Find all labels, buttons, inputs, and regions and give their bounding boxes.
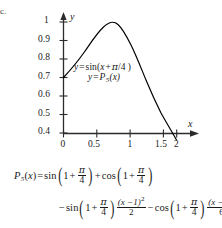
formula-pi-1: π (78, 165, 86, 175)
figure-root: c. (0, 0, 222, 228)
formula-fraction-quadratic: (x −1)22 (116, 196, 147, 218)
formula-exponent-2: 2 (141, 195, 145, 203)
formula-four-2: 4 (137, 175, 145, 186)
formula-one-1: 1 (63, 170, 68, 181)
y-tick-label-0.9: 0.9 (38, 34, 50, 44)
formula-plus-3: + (128, 170, 136, 181)
formula-x-minus-1-sq: (x −1) (118, 197, 141, 207)
formula-cos-1: cos (102, 170, 116, 181)
formula-block: P5(x)=sin(1+π4)+cos(1+π4) −sin(1+π4)(x −… (0, 158, 222, 228)
formula-line-2: −sin(1+π4)(x −1)22−cos(1+π4)(x −1)36 (58, 196, 222, 218)
formula-quad-num: (x −1)2 (117, 196, 146, 207)
x-axis-arrowhead (190, 130, 199, 137)
x-tick-label-2: 2 (174, 139, 179, 149)
formula-cubic-num: (x −1)3 (207, 196, 222, 207)
x-axis-label: x (188, 118, 192, 129)
annotation1-plus: + (104, 62, 111, 72)
formula-fraction-pi-over-4-1: π4 (77, 165, 88, 186)
y-tick-label-1: 1 (44, 15, 49, 25)
formula-plus-5: + (181, 202, 189, 213)
formula-bigparen-close-3: ) (110, 202, 114, 214)
formula-plus-4: + (90, 202, 98, 213)
x-tick-label-0.5: 0.5 (88, 139, 100, 149)
formula-bigparen-open-2: ( (117, 169, 121, 181)
formula-x-minus-1-cube: (x −1) (208, 197, 222, 207)
formula-pi-3: π (100, 197, 108, 207)
annotation2-equals: = (92, 72, 99, 82)
x-tick-label-0: 0 (61, 139, 66, 149)
formula-four-3: 4 (100, 207, 108, 218)
formula-line-1: P5(x)=sin(1+π4)+cos(1+π4) (14, 165, 153, 186)
formula-plus-2: + (94, 170, 102, 181)
formula-plus-1: + (69, 170, 77, 181)
formula-bigparen-close-1: ) (88, 169, 92, 181)
y-tick-label-0.8: 0.8 (38, 52, 50, 62)
formula-bigparen-open-1: ( (58, 169, 62, 181)
formula-six: 6 (207, 207, 222, 218)
formula-bigparen-close-2: ) (148, 169, 152, 181)
annotation1-sin: sin( (86, 62, 101, 72)
annotation2-arg: (x) (109, 72, 120, 82)
annotation1-tail: /4 ) (118, 62, 131, 72)
formula-bigparen-open-3: ( (80, 202, 84, 214)
formula-sin-1: sin (44, 170, 57, 181)
formula-two: 2 (117, 207, 146, 218)
formula-four-4: 4 (190, 207, 198, 218)
formula-equals: = (36, 170, 44, 181)
annotation-sine-equation: y=sin(x+π/4 ) (74, 61, 131, 72)
formula-bigparen-close-4: ) (201, 202, 205, 214)
y-tick-label-0.4: 0.4 (38, 126, 50, 136)
formula-sin-2: sin (66, 202, 79, 213)
formula-four-1: 4 (78, 175, 86, 186)
formula-cos-2: cos (155, 202, 169, 213)
formula-fraction-cubic: (x −1)36 (206, 196, 222, 218)
formula-pi-2: π (137, 165, 145, 175)
formula-minus-1: − (58, 202, 66, 213)
plot-area: 1 0.9 0.8 0.7 0.6 0.5 0.4 0 0.5 1 1.5 2 … (0, 0, 222, 156)
formula-minus-2: − (147, 202, 155, 213)
x-tick-label-1: 1 (128, 139, 133, 149)
annotation-taylor-equation: y=P5(x) (88, 72, 120, 84)
annotation1-equals: = (78, 62, 85, 72)
formula-fraction-pi-over-4-2: π4 (136, 165, 147, 186)
y-tick-label-0.6: 0.6 (38, 89, 50, 99)
x-tick-label-1.5: 1.5 (155, 139, 167, 149)
formula-fraction-pi-over-4-4: π4 (189, 197, 200, 218)
y-axis-arrowhead (60, 12, 66, 20)
y-tick-label-0.5: 0.5 (38, 108, 50, 118)
formula-bigparen-open-4: ( (170, 202, 174, 214)
y-tick-label-0.7: 0.7 (38, 71, 50, 81)
formula-fraction-pi-over-4-3: π4 (98, 197, 109, 218)
formula-pi-4: π (190, 197, 198, 207)
y-axis-label: y (70, 11, 74, 22)
